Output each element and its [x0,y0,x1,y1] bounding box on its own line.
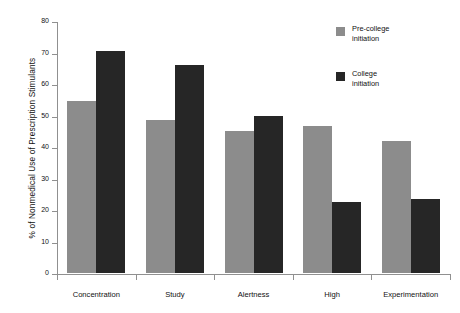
bar [254,116,283,273]
y-tick-label: 20 [41,206,49,213]
x-tick [293,275,294,280]
legend-label-line2: initiation [352,79,452,89]
bar [67,101,96,273]
x-axis-label: Experimentation [383,290,438,299]
legend-entry-pre-college: Pre-college initiation [336,26,456,48]
bar [303,126,332,273]
legend-label-college: College initiation [352,69,452,88]
bar-chart: % of Nonmedical Use of Prescription Stim… [0,0,460,313]
y-axis-title: % of Nonmedical Use of Prescription Stim… [27,23,37,273]
pre-college-swatch [336,27,345,36]
bar [411,199,440,273]
y-tick: 60 [52,85,57,86]
legend-label-line2: initiation [352,34,452,44]
y-tick: 50 [52,117,57,118]
x-axis-line [57,274,451,275]
bar [225,131,254,273]
x-axis-label: High [324,290,340,299]
y-tick-label: 10 [41,238,49,245]
y-tick-label: 0 [45,269,49,276]
chart-legend: Pre-college initiation College initiatio… [336,26,456,116]
y-tick: 20 [52,211,57,212]
bar [96,51,125,273]
bar [175,65,204,273]
y-tick-label: 60 [41,80,49,87]
y-tick-label: 40 [41,143,49,150]
y-tick: 40 [52,148,57,149]
y-tick: 70 [52,54,57,55]
bar [146,120,175,273]
y-tick: 80 [52,22,57,23]
bar [332,202,361,273]
college-swatch [336,72,345,81]
legend-label-line1: Pre-college [352,24,452,34]
x-axis-label: Alertness [238,290,270,299]
x-tick [214,275,215,280]
legend-label-pre-college: Pre-college initiation [352,24,452,43]
y-tick-label: 50 [41,112,49,119]
y-tick-label: 30 [41,175,49,182]
y-tick-label: 70 [41,49,49,56]
legend-entry-college: College initiation [336,71,456,93]
y-tick: 30 [52,180,57,181]
y-tick: 10 [52,243,57,244]
legend-label-line1: College [352,69,452,79]
x-axis-label: Concentration [73,290,120,299]
bar [382,141,411,273]
y-tick-label: 80 [41,17,49,24]
x-tick [450,275,451,280]
x-axis-label: Study [165,290,184,299]
x-tick [136,275,137,280]
x-tick [371,275,372,280]
y-axis-line [57,22,58,275]
x-tick [57,275,58,280]
